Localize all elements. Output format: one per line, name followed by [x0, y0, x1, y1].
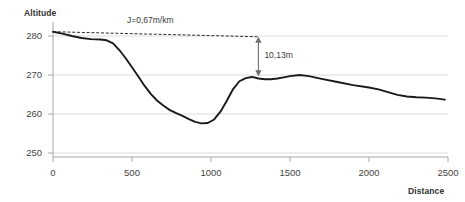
x-axis-ticks [53, 157, 448, 162]
slope-label: J=0,67m/km [127, 15, 174, 25]
drop-arrow-head-top [255, 37, 261, 43]
y-tick-label-260: 260 [14, 108, 42, 119]
altitude-profile-line [53, 32, 445, 124]
y-tick-label-270: 270 [14, 69, 42, 80]
x-tick-label-500: 500 [112, 167, 152, 178]
drop-measure-arrow [255, 37, 261, 76]
y-tick-label-250: 250 [14, 147, 42, 158]
x-axis-title: Distance [408, 186, 444, 196]
y-axis-ticks [48, 36, 53, 153]
y-tick-label-280: 280 [14, 30, 42, 41]
y-axis-title: Altitude [24, 8, 56, 18]
x-tick-label-2500: 2500 [428, 167, 465, 178]
x-tick-label-0: 0 [33, 167, 73, 178]
drop-label: 10,13m [264, 50, 292, 60]
gridlines [53, 36, 448, 153]
x-tick-label-1500: 1500 [270, 167, 310, 178]
altitude-profile-chart: Altitude Distance 280 270 260 250 0 500 … [0, 0, 465, 202]
x-tick-label-1000: 1000 [191, 167, 231, 178]
x-tick-label-2000: 2000 [349, 167, 389, 178]
